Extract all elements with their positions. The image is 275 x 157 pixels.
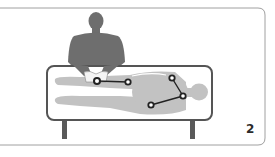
pressure-point-icon bbox=[179, 92, 186, 99]
pressure-point-icon bbox=[147, 101, 154, 108]
practitioner-silhouette bbox=[68, 12, 125, 66]
pressure-point-icon bbox=[93, 77, 101, 85]
pressure-point-icon bbox=[124, 78, 131, 85]
table-leg-left bbox=[62, 121, 67, 139]
table-leg-right bbox=[190, 121, 195, 139]
illustration bbox=[0, 0, 275, 157]
pressure-point-icon bbox=[168, 74, 175, 81]
panel-number: 2 bbox=[246, 122, 254, 136]
